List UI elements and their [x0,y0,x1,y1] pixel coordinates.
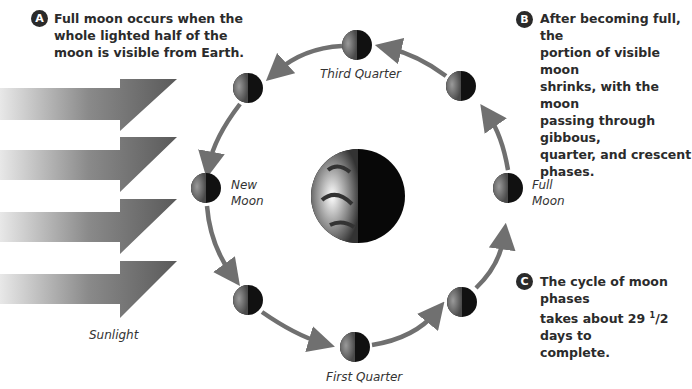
callout-b-line: shrinks, with the moon [540,78,692,112]
callout-a-text: Full moon occurs when the whole lighted … [54,10,244,61]
label-third-quarter: Third Quarter [320,66,401,82]
label-full-moon: Full Moon [532,177,565,209]
sunlight-arrow-2 [0,137,177,192]
callout-c-line: complete. [540,344,692,361]
sunlight-arrow-1 [0,79,177,131]
moon-waxing-crescent [233,285,263,315]
callout-c-line: takes about 29 1/2 days to [540,307,692,344]
sunlight-arrow-4 [0,261,177,318]
label-new-moon: New Moon [231,177,264,209]
callout-b-line: After becoming full, the [540,10,692,44]
callout-c-text: The cycle of moon phases takes about 29 … [540,273,692,361]
earth [311,149,405,243]
sunlight-arrow-3 [0,199,177,254]
label-first-quarter: First Quarter [326,369,402,385]
moon-third-quarter [342,30,372,60]
label-sunlight: Sunlight [89,327,138,343]
label-full-moon-line: Moon [532,193,565,209]
callout-b-line: passing through gibbous, [540,112,692,146]
callout-b-text: After becoming full, the portion of visi… [540,10,692,180]
moon-full [493,173,523,203]
callout-a-line: whole lighted half of the [54,27,244,44]
label-new-moon-line: Moon [231,193,264,209]
moon-waning-crescent [233,73,263,103]
callout-a-line: Full moon occurs when the [54,10,244,27]
callout-c-line: The cycle of moon phases [540,273,692,307]
label-new-moon-line: New [231,177,264,193]
callout-b-badge: B [516,11,533,28]
callout-b-line: quarter, and crescent [540,146,692,163]
callout-a-line: moon is visible from Earth. [54,44,244,61]
moon-waning-gibbous [446,71,476,101]
callout-b-line: portion of visible moon [540,44,692,78]
callout-c-text-part: takes about 29 [540,311,650,326]
moon-first-quarter [340,332,370,362]
moon-waxing-gibbous [447,287,477,317]
label-full-moon-line: Full [532,177,565,193]
callout-a-badge: A [31,10,48,27]
moon-new [191,173,221,203]
sunlight-arrows [0,79,177,318]
callout-c-badge: C [516,273,533,290]
